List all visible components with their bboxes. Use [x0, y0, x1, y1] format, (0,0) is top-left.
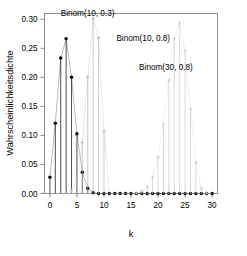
x-tick-label: 0	[48, 201, 53, 210]
y-axis-title: Wahrscheinlichkeitsdichte	[5, 50, 15, 155]
y-tick-label: 0.10	[22, 131, 38, 140]
data-point	[75, 132, 78, 135]
y-tick-label: 0.20	[22, 73, 38, 82]
x-tick-label: 20	[153, 201, 163, 210]
data-point	[59, 56, 62, 59]
series-annotation-1: Binom(10, 0.3)	[61, 9, 115, 18]
x-tick-label: 10	[99, 201, 109, 210]
data-point	[64, 37, 67, 40]
y-tick-label: 0.25	[22, 44, 38, 53]
x-tick-label: 30	[208, 201, 218, 210]
x-tick-label: 15	[126, 201, 136, 210]
y-tick-label: 0.05	[22, 160, 38, 169]
y-tick-label: 0.00	[22, 190, 38, 199]
x-tick-label: 25	[181, 201, 191, 210]
series-annotation-2: Binom(10, 0.8)	[116, 34, 170, 43]
y-tick-label: 0.30	[22, 15, 38, 24]
data-point	[70, 76, 73, 79]
binomial-pmf-chart: 0.000.050.100.150.200.250.30 05101520253…	[0, 0, 247, 256]
y-tick-label: 0.15	[22, 102, 38, 111]
x-tick-label: 5	[75, 201, 80, 210]
data-point	[54, 121, 57, 124]
x-axis-title: k	[129, 229, 134, 239]
chart-root: 0.000.050.100.150.200.250.30 05101520253…	[0, 0, 247, 256]
series-annotation-3: Binom(30, 0.8)	[139, 63, 193, 72]
data-point	[48, 175, 51, 178]
